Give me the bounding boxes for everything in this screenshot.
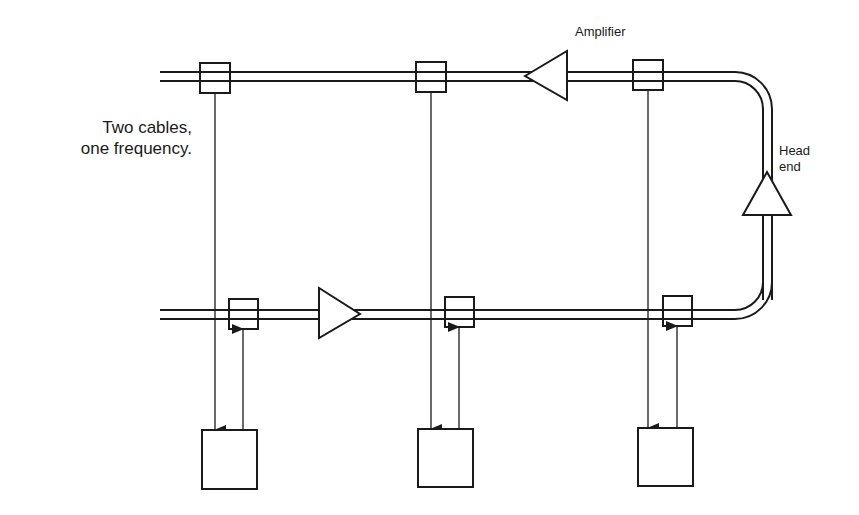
bottom-tap-2 xyxy=(445,297,474,327)
amplifier-label: Amplifier xyxy=(575,24,626,39)
head-end-line-2: end xyxy=(779,159,810,175)
station-1 xyxy=(202,430,257,489)
head-end-line-1: Head xyxy=(779,143,810,159)
caption-line-1: Two cables, xyxy=(40,117,192,138)
caption-label: Two cables, one frequency. xyxy=(40,117,192,159)
bottom-cable xyxy=(160,282,772,319)
cable-diagram xyxy=(0,0,859,515)
top-amplifier-icon xyxy=(525,51,567,100)
bottom-tap-1 xyxy=(229,299,258,329)
station-2 xyxy=(418,429,473,487)
bottom-amplifier-icon xyxy=(319,288,360,338)
top-tap-1 xyxy=(200,63,230,93)
top-cable xyxy=(160,72,772,300)
station-3 xyxy=(638,428,693,486)
head-end-amplifier-icon xyxy=(743,172,791,215)
head-end-label: Head end xyxy=(779,143,810,175)
top-tap-3 xyxy=(633,60,663,90)
top-tap-2 xyxy=(416,62,446,92)
caption-line-2: one frequency. xyxy=(40,138,192,159)
